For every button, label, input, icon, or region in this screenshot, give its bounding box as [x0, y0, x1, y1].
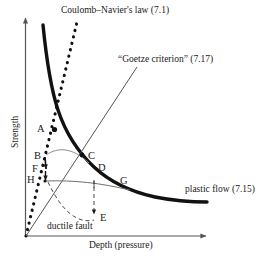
goetze-criterion-line	[26, 67, 137, 236]
ductile-fault-annotation: ductile fault	[47, 222, 93, 232]
point-label-b: B	[34, 151, 41, 162]
marker-point-c	[80, 153, 85, 158]
plastic-flow-annotation: plastic flow (7.15)	[185, 185, 255, 195]
x-axis-label: Depth (pressure)	[89, 241, 153, 251]
path-b-to-f	[45, 157, 46, 169]
marker-point-h	[44, 180, 47, 183]
point-label-f: F	[32, 164, 38, 175]
point-label-a: A	[37, 124, 45, 135]
ductile-fault-arc	[48, 182, 94, 221]
point-label-e: E	[100, 213, 106, 224]
point-label-d: D	[98, 163, 106, 174]
y-axis-label: Strength	[11, 116, 21, 148]
point-label-c: C	[88, 151, 95, 162]
marker-point-a	[52, 127, 57, 132]
coulomb-navier-line	[26, 22, 77, 236]
coulomb-navier-annotation: Coulomb–Navier's law (7.1)	[61, 6, 169, 16]
strength-depth-diagram: Coulomb–Navier's law (7.1) “Goetze crite…	[0, 0, 274, 258]
goetze-criterion-annotation: “Goetze criterion” (7.17)	[118, 55, 213, 65]
point-label-h: H	[27, 175, 35, 186]
point-label-g: G	[120, 176, 128, 187]
